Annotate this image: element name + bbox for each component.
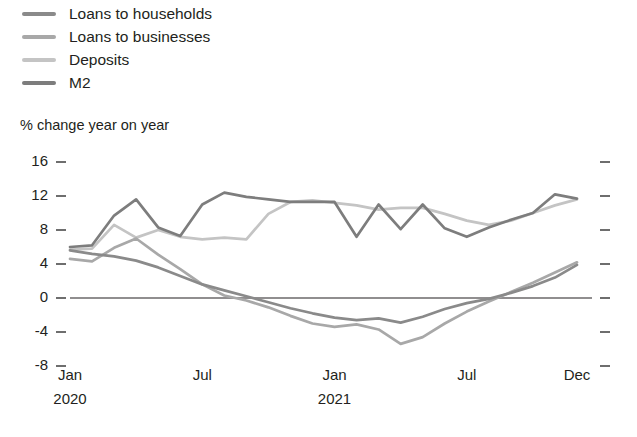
- data-line-loans-to-businesses: [70, 239, 577, 344]
- x-axis-tick-label: Jul: [162, 366, 242, 383]
- legend-label: Loans to businesses: [69, 29, 210, 45]
- y-axis-tick-label: 0: [14, 288, 48, 305]
- y-axis-tick-label: 4: [14, 254, 48, 271]
- data-line-loans-to-households: [70, 250, 577, 322]
- data-line-m2: [70, 193, 577, 247]
- bottom-note: [18, 427, 438, 437]
- legend-swatch-loans-businesses: [22, 35, 56, 39]
- legend-item: Loans to businesses: [22, 25, 212, 48]
- legend-item: Loans to households: [22, 2, 212, 25]
- y-axis-tick-label: 16: [14, 152, 48, 169]
- y-axis-title: % change year on year: [20, 117, 169, 133]
- x-axis-tick-year: 2020: [30, 390, 110, 407]
- y-axis-tick-label: 8: [14, 220, 48, 237]
- x-axis-tick-label: Jul: [427, 366, 507, 383]
- legend-item: Deposits: [22, 48, 212, 71]
- legend-item: M2: [22, 71, 212, 94]
- legend-swatch-loans-households: [22, 12, 56, 16]
- chart-plot-area: [0, 140, 637, 380]
- x-axis-tick-label: Dec: [537, 366, 617, 383]
- legend-swatch-m2: [22, 81, 56, 85]
- x-axis-tick-year: 2021: [295, 390, 375, 407]
- y-axis-tick-label: 12: [14, 186, 48, 203]
- y-axis-tick-label: -4: [14, 322, 48, 339]
- legend-label: Deposits: [69, 52, 129, 68]
- chart-legend: Loans to households Loans to businesses …: [22, 2, 212, 94]
- x-axis-tick-label: Jan: [295, 366, 375, 383]
- legend-label: Loans to households: [69, 6, 212, 22]
- x-axis-tick-label: Jan: [30, 366, 110, 383]
- line-chart-svg: [0, 140, 637, 380]
- legend-label: M2: [69, 75, 91, 91]
- legend-swatch-deposits: [22, 58, 56, 62]
